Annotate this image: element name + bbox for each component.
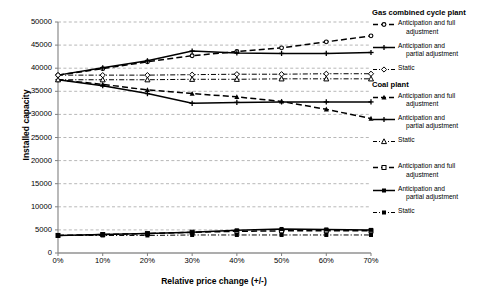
legend-label-line1: Anticipation and: [398, 185, 445, 192]
legend-symbol: [372, 208, 396, 217]
legend-symbol: [372, 163, 396, 172]
data-point-marker: [382, 211, 386, 215]
data-point-marker: [382, 188, 386, 192]
legend-label-line1: Anticipation and full: [398, 19, 455, 26]
data-point-marker: [382, 139, 387, 144]
data-point-marker: [280, 233, 284, 237]
legend-label-line2: partial adjustment: [398, 122, 477, 130]
data-point-marker: [324, 51, 329, 56]
data-point-marker: [279, 51, 284, 56]
legend-symbol: [372, 43, 396, 52]
x-axis-tick-labels: 0%10%20%30%40%50%60%70%: [0, 256, 477, 270]
x-axis-tick-label: 70%: [351, 256, 391, 265]
legend-label: Anticipation andpartial adjustment: [398, 114, 477, 130]
data-point-marker: [369, 228, 373, 232]
data-point-marker: [324, 99, 329, 104]
data-point-marker: [235, 233, 239, 237]
data-point-marker: [279, 99, 284, 104]
chart-figure: Installed capacity 050001000015000200002…: [0, 0, 477, 298]
legend-symbol: [372, 20, 396, 29]
x-axis-tick-label: 10%: [83, 256, 123, 265]
legend-label-line1: Static: [398, 136, 415, 143]
x-axis-tick-label: 0%: [38, 256, 78, 265]
legend-symbol: [372, 186, 396, 195]
data-point-marker: [145, 233, 149, 237]
legend-item[interactable]: Anticipation and fulladjustment: [372, 92, 477, 108]
data-point-marker: [145, 77, 150, 82]
legend-item[interactable]: Anticipation andpartial adjustment: [372, 42, 477, 58]
legend-item[interactable]: Static: [372, 207, 477, 217]
data-point-marker: [324, 233, 328, 237]
legend-label-line1: Anticipation and full: [398, 162, 455, 169]
data-point-marker: [234, 100, 239, 105]
legend-label-line2: partial adjustment: [398, 50, 477, 58]
legend-group-header: Coal plant: [372, 80, 477, 89]
x-axis-tick-label: 60%: [306, 256, 346, 265]
data-point-marker: [280, 46, 284, 50]
series-line: [58, 51, 371, 75]
data-point-marker: [190, 54, 194, 58]
data-point-marker: [56, 77, 61, 82]
legend-item[interactable]: Anticipation andpartial adjustment: [372, 114, 477, 130]
legend-label: Anticipation and fulladjustment: [398, 162, 477, 178]
legend-label-line2: adjustment: [398, 100, 477, 108]
data-point-marker: [234, 77, 239, 82]
legend-label: Static: [398, 64, 477, 72]
data-point-marker: [382, 23, 386, 27]
legend-label: Anticipation and fulladjustment: [398, 19, 477, 35]
legend-item[interactable]: Anticipation and fulladjustment: [372, 162, 477, 178]
legend-group-spacer: [372, 152, 477, 162]
data-point-marker: [235, 228, 239, 232]
legend-item[interactable]: Anticipation andpartial adjustment: [372, 185, 477, 201]
data-point-marker: [101, 233, 105, 237]
data-point-marker: [381, 67, 386, 72]
data-point-marker: [324, 227, 328, 231]
legend-label: Anticipation andpartial adjustment: [398, 42, 477, 58]
data-point-marker: [280, 227, 284, 231]
data-point-marker: [190, 101, 195, 106]
legend-item[interactable]: Static: [372, 64, 477, 74]
data-point-marker: [381, 45, 386, 50]
legend-label: Anticipation andpartial adjustment: [398, 185, 477, 201]
legend-label-line2: adjustment: [398, 28, 477, 36]
legend-label: Static: [398, 136, 477, 144]
legend-item[interactable]: Static: [372, 136, 477, 146]
legend-label: Anticipation and fulladjustment: [398, 92, 477, 108]
data-point-marker: [369, 233, 373, 237]
x-axis-title: Relative price change (+/-): [56, 276, 372, 286]
x-axis-tick-label: 40%: [217, 256, 257, 265]
legend-symbol: [372, 65, 396, 74]
data-point-marker: [56, 233, 60, 237]
data-point-marker: [324, 40, 328, 44]
data-point-marker: [279, 76, 284, 81]
x-axis-tick-label: 50%: [262, 256, 302, 265]
legend-label-line1: Static: [398, 207, 415, 214]
data-point-marker: [324, 76, 329, 81]
chart-legend: Gas combined cycle plantAnticipation and…: [372, 8, 477, 223]
legend-symbol: [372, 137, 396, 146]
legend-label-line1: Anticipation and: [398, 114, 445, 121]
legend-label-line2: partial adjustment: [398, 193, 477, 201]
legend-label-line1: Anticipation and: [398, 42, 445, 49]
data-point-marker: [100, 77, 105, 82]
legend-symbol: [372, 115, 396, 124]
legend-label-line1: Anticipation and full: [398, 92, 455, 99]
data-point-marker: [190, 77, 195, 82]
data-point-marker: [381, 117, 386, 122]
legend-group-header: Gas combined cycle plant: [372, 8, 477, 17]
legend-label-line1: Static: [398, 64, 415, 71]
legend-symbol: [372, 93, 396, 102]
legend-label-line2: adjustment: [398, 171, 477, 179]
data-point-marker: [382, 166, 386, 170]
legend-item[interactable]: Anticipation and fulladjustment: [372, 19, 477, 35]
x-axis-tick-label: 30%: [172, 256, 212, 265]
legend-label: Static: [398, 207, 477, 215]
x-axis-tick-label: 20%: [127, 256, 167, 265]
data-point-marker: [190, 49, 195, 54]
data-point-marker: [190, 233, 194, 237]
